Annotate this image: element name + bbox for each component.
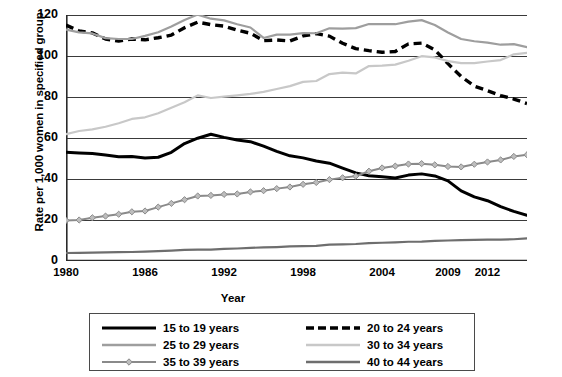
series-marker [300, 181, 306, 187]
legend-item[interactable]: 25 to 29 years [100, 337, 282, 353]
series-marker [102, 213, 108, 219]
x-tick-label: 2004 [352, 266, 412, 278]
y-tick-label: 100 [0, 48, 58, 62]
series-marker [76, 217, 82, 223]
legend-marker [126, 359, 132, 365]
legend-label: 20 to 24 years [367, 322, 443, 334]
series-marker [221, 191, 227, 197]
series-marker [168, 200, 174, 206]
chart-legend: 15 to 19 years20 to 24 years25 to 29 yea… [89, 313, 475, 371]
series-marker [247, 189, 253, 195]
chart-figure: Rate per 1,000 women in specified group … [0, 0, 562, 377]
series-marker [458, 164, 464, 170]
legend-label: 40 to 44 years [367, 356, 443, 368]
series-line [66, 134, 527, 215]
series-marker [195, 193, 201, 199]
series-marker [260, 188, 266, 194]
series-marker [392, 163, 398, 169]
series-marker [498, 157, 504, 163]
legend-label: 25 to 29 years [163, 339, 239, 351]
series-marker [366, 168, 372, 174]
y-tick-label: 20 [0, 212, 58, 226]
legend-swatch [100, 322, 158, 334]
x-tick-label: 1998 [273, 266, 333, 278]
series-marker [471, 161, 477, 167]
legend-swatch [304, 356, 362, 368]
legend-swatch [100, 339, 158, 351]
y-tick-label: 0 [0, 253, 58, 267]
plot-area [66, 15, 527, 261]
y-tick-label: 120 [0, 7, 58, 21]
x-tick-label: 2012 [457, 266, 517, 278]
series-marker [208, 192, 214, 198]
series-marker [313, 179, 319, 185]
series-marker [445, 163, 451, 169]
series-marker [155, 204, 161, 210]
legend-swatch [100, 356, 158, 368]
series-marker [142, 208, 148, 214]
series-line [66, 53, 527, 134]
series-marker [405, 161, 411, 167]
series-marker [379, 165, 385, 171]
series-marker [432, 162, 438, 168]
x-tick-label: 1980 [36, 266, 96, 278]
series-line [66, 238, 527, 253]
x-axis-title: Year [0, 292, 562, 304]
legend-label: 30 to 34 years [367, 339, 443, 351]
y-axis-title: Rate per 1,000 women in specified group [33, 0, 45, 247]
legend-item[interactable]: 20 to 24 years [282, 320, 464, 336]
y-tick-label: 80 [0, 89, 58, 103]
legend-grid: 15 to 19 years20 to 24 years25 to 29 yea… [90, 318, 474, 370]
legend-swatch [304, 322, 362, 334]
legend-item[interactable]: 35 to 39 years [100, 354, 282, 370]
legend-item[interactable]: 40 to 44 years [282, 354, 464, 370]
series-marker [484, 159, 490, 165]
y-tick-label: 60 [0, 130, 58, 144]
series-marker [287, 184, 293, 190]
series-marker [234, 191, 240, 197]
x-axis-title-text: Year [221, 292, 245, 304]
legend-label: 15 to 19 years [163, 322, 239, 334]
series-marker [511, 153, 517, 159]
legend-item[interactable]: 15 to 19 years [100, 320, 282, 336]
series-marker [326, 177, 332, 183]
series-marker [419, 161, 425, 167]
x-tick-label: 1992 [194, 266, 254, 278]
line-chart-svg [66, 15, 527, 261]
legend-label: 35 to 39 years [163, 356, 239, 368]
legend-swatch [304, 339, 362, 351]
series-line [66, 15, 527, 47]
x-tick-label: 1986 [115, 266, 175, 278]
series-marker [181, 197, 187, 203]
y-tick-label: 40 [0, 171, 58, 185]
series-marker [129, 209, 135, 215]
series-marker [524, 152, 527, 158]
series-marker [274, 186, 280, 192]
legend-item[interactable]: 30 to 34 years [282, 337, 464, 353]
series-marker [116, 211, 122, 217]
series-marker [66, 217, 69, 223]
